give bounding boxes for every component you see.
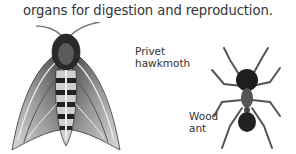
moth-label-line-1: Privet [135, 45, 190, 57]
body-text-line: organs for digestion and reproduction. [23, 3, 273, 18]
moth-label-line-2: hawkmoth [135, 57, 190, 69]
ant-label-line-1: Wood [189, 110, 218, 122]
moth-illustration-icon [10, 22, 122, 154]
moth-label: Privet hawkmoth [135, 45, 190, 69]
ant-label-line-2: ant [189, 122, 218, 134]
ant-illustration-icon [208, 44, 288, 152]
ant-label: Wood ant [189, 110, 218, 134]
